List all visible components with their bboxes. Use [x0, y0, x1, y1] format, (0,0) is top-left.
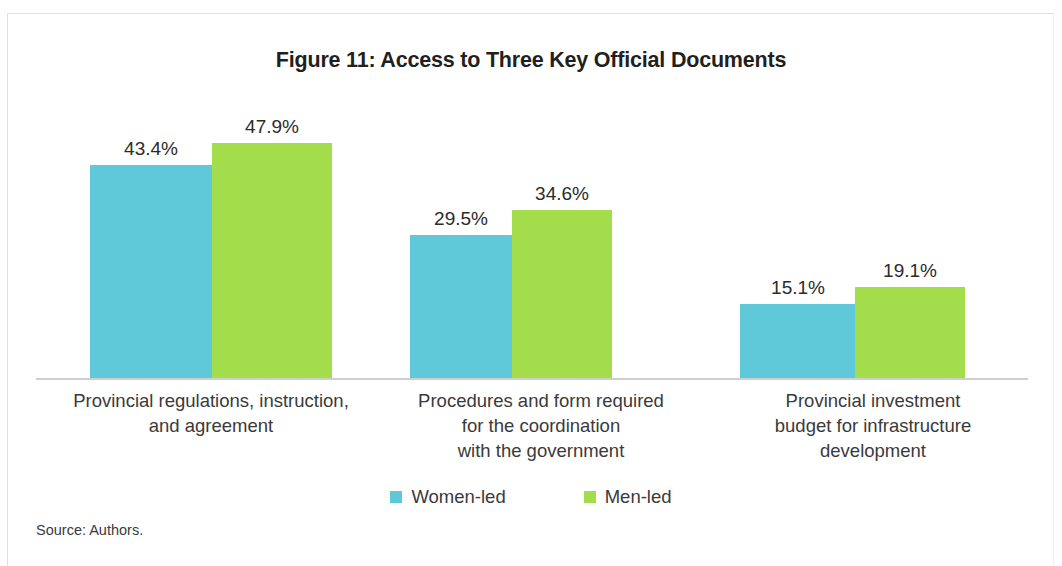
- source-note: Source: Authors.: [36, 522, 143, 538]
- category-label-1-line-1: Provincial regulations, instruction,: [31, 388, 391, 413]
- bar-wrap-g3-women: 15.1%: [740, 100, 855, 378]
- chart-plot-area: 43.4% 47.9% 29.5% 34.6% 15.1% 19.1% Prov…: [0, 0, 1062, 566]
- bar-value-g3-women: 15.1%: [738, 277, 858, 299]
- bar-g2-men[interactable]: [512, 210, 612, 378]
- legend-label-women-led: Women-led: [411, 486, 505, 508]
- bar-g2-women[interactable]: [410, 235, 512, 378]
- bar-g3-women[interactable]: [740, 304, 855, 378]
- category-label-2-line-2: for the coordination: [381, 413, 701, 438]
- bar-wrap-g2-men: 34.6%: [512, 100, 612, 378]
- category-label-3-line-2: budget for infrastructure: [718, 413, 1028, 438]
- bar-value-g2-women: 29.5%: [401, 208, 521, 230]
- category-label-3-line-1: Provincial investment: [718, 388, 1028, 413]
- bar-wrap-g3-men: 19.1%: [855, 100, 965, 378]
- bar-value-g1-men: 47.9%: [212, 116, 332, 138]
- bar-value-g1-women: 43.4%: [91, 138, 211, 160]
- category-label-2: Procedures and form required for the coo…: [381, 388, 701, 463]
- category-label-3-line-3: development: [718, 438, 1028, 463]
- legend-swatch-women-led-icon: [390, 491, 402, 503]
- category-label-1-line-2: and agreement: [31, 413, 391, 438]
- bar-wrap-g1-women: 43.4%: [90, 100, 212, 378]
- legend-swatch-men-led-icon: [584, 491, 596, 503]
- chart-baseline-axis: [36, 378, 1028, 380]
- legend-item-men-led[interactable]: Men-led: [584, 486, 672, 508]
- bar-value-g2-men: 34.6%: [502, 183, 622, 205]
- legend-item-women-led[interactable]: Women-led: [390, 486, 505, 508]
- bar-g1-women[interactable]: [90, 165, 212, 378]
- bar-group-2: 29.5% 34.6%: [410, 100, 612, 378]
- category-label-2-line-1: Procedures and form required: [381, 388, 701, 413]
- category-label-3: Provincial investment budget for infrast…: [718, 388, 1028, 463]
- bar-g3-men[interactable]: [855, 287, 965, 378]
- bar-wrap-g1-men: 47.9%: [212, 100, 332, 378]
- category-label-1: Provincial regulations, instruction, and…: [31, 388, 391, 438]
- chart-legend: Women-led Men-led: [0, 486, 1062, 508]
- bar-group-1: 43.4% 47.9%: [90, 100, 332, 378]
- legend-label-men-led: Men-led: [605, 486, 672, 508]
- bar-value-g3-men: 19.1%: [850, 260, 970, 282]
- bar-wrap-g2-women: 29.5%: [410, 100, 512, 378]
- bar-group-3: 15.1% 19.1%: [740, 100, 965, 378]
- category-label-2-line-3: with the government: [381, 438, 701, 463]
- bar-g1-men[interactable]: [212, 143, 332, 378]
